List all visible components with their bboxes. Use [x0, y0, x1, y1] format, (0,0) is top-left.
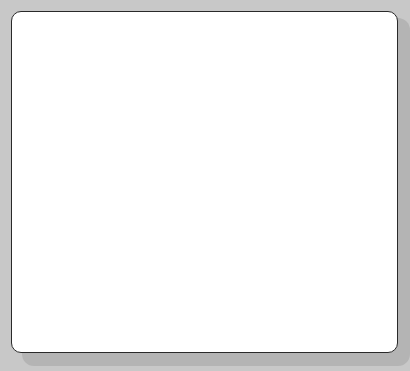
- geometry-canvas[interactable]: [0, 0, 410, 371]
